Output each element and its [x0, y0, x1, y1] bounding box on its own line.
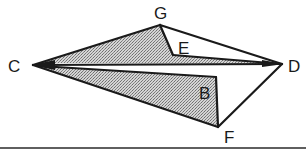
fold-diagram: C G E D B F	[0, 0, 306, 154]
label-B: B	[199, 84, 210, 103]
label-E: E	[178, 39, 189, 58]
label-C: C	[8, 57, 20, 76]
crease-CD-upper	[33, 64, 282, 65]
label-F: F	[224, 128, 234, 147]
label-G: G	[154, 4, 167, 23]
label-D: D	[288, 57, 300, 76]
upper-shaded-region-E	[33, 25, 282, 65]
